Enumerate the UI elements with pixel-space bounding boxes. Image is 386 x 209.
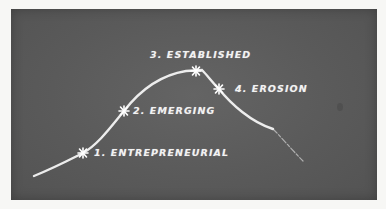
stage-label-emerging: 2. EMERGING	[133, 105, 215, 116]
star-icon	[78, 148, 88, 158]
chalkboard: 1. ENTREPRENEURIAL 2. EMERGING 3. ESTABL…	[11, 9, 377, 200]
star-icon	[214, 84, 224, 94]
stage-label-established: 3. ESTABLISHED	[150, 49, 251, 60]
stage-label-erosion: 4. EROSION	[235, 83, 308, 94]
stage-label-entrepreneurial: 1. ENTREPRENEURIAL	[94, 147, 229, 158]
star-icon	[119, 106, 129, 116]
star-icon	[191, 66, 201, 76]
